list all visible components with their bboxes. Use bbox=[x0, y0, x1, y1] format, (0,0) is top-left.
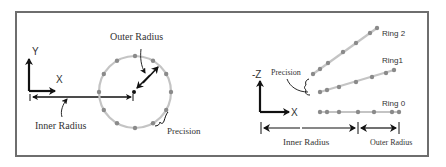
inner-radius-label: Inner Radius bbox=[283, 137, 330, 147]
precision-label: Precision bbox=[167, 126, 201, 136]
inner-radius-dimension bbox=[261, 122, 358, 134]
zx-axes-icon bbox=[260, 81, 289, 112]
axis-x-label: X bbox=[291, 107, 298, 118]
outer-radius-dimension bbox=[361, 122, 399, 134]
precision-label: Precision bbox=[271, 68, 301, 77]
right-panel: -Z X Ring 2 bbox=[252, 26, 412, 147]
ring-1-label: Ring1 bbox=[382, 56, 403, 65]
outer-radius-dimension bbox=[137, 49, 158, 88]
axis-z-label: -Z bbox=[252, 69, 261, 80]
center-point bbox=[132, 90, 136, 94]
ring-0-label: Ring 0 bbox=[382, 99, 406, 108]
precision-leader-line bbox=[287, 79, 308, 92]
precision-brace-icon bbox=[305, 79, 311, 95]
axis-y-label: Y bbox=[32, 46, 39, 57]
inner-radius-dimension bbox=[30, 94, 133, 117]
ring-0 bbox=[318, 110, 401, 114]
left-panel: Y X Inner Radius bbox=[29, 31, 201, 136]
inner-radius-label: Inner Radius bbox=[35, 120, 86, 131]
outer-radius-label: Outer Radius bbox=[370, 138, 412, 147]
ring-1 bbox=[318, 68, 396, 94]
axis-x-label: X bbox=[56, 74, 63, 85]
xy-axes-icon bbox=[29, 59, 55, 91]
diagram-canvas: Y X Inner Radius bbox=[0, 0, 446, 167]
ring-2 bbox=[311, 26, 379, 76]
precision-brace-icon bbox=[155, 112, 168, 126]
ring-2-label: Ring 2 bbox=[382, 29, 406, 38]
outer-radius-label: Outer Radius bbox=[110, 31, 163, 42]
